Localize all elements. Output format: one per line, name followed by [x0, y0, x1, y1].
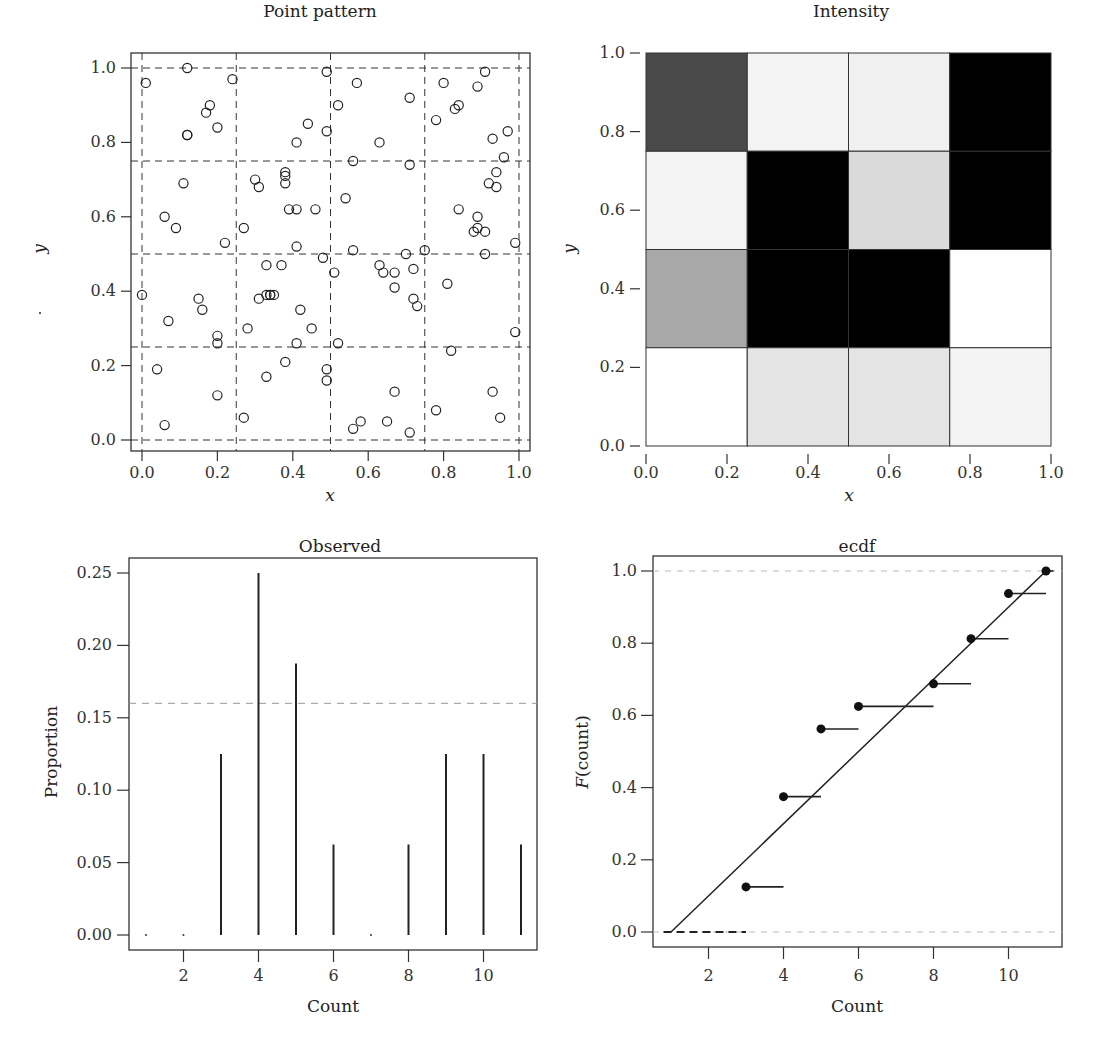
point-marker [390, 268, 399, 277]
intensity-cell [747, 53, 848, 151]
stray-mark [39, 312, 41, 314]
y-axis-label: y [559, 244, 579, 255]
point-marker [473, 82, 482, 91]
panel-point-pattern: Point pattern 0.00.20.40.60.81.0 0.00.20… [29, 1, 532, 505]
point-marker [447, 346, 456, 355]
point-marker [488, 134, 497, 143]
y-tick-label: 1.0 [600, 43, 625, 62]
zero-marker [145, 934, 147, 936]
point-marker [201, 108, 210, 117]
x-tick-label: 0.4 [280, 463, 305, 482]
point-marker [322, 376, 331, 385]
y-tick-label: 0.4 [600, 279, 625, 298]
point-marker [239, 223, 248, 232]
x-tick-label: 0.6 [876, 463, 901, 482]
y-tick-label: 0.15 [76, 708, 112, 727]
point-marker [352, 78, 361, 87]
point-marker [492, 182, 501, 191]
y-tick-label: 1.0 [91, 58, 116, 77]
intensity-cells [646, 53, 1051, 446]
intensity-cell [646, 53, 747, 151]
reference-cdf-line [671, 571, 1046, 932]
intensity-cell [747, 151, 848, 249]
point-marker [413, 301, 422, 310]
point-marker [141, 78, 150, 87]
chart-title: Point pattern [263, 1, 376, 21]
x-axis: 246810 [703, 947, 1018, 985]
chart-title: Intensity [813, 1, 889, 21]
x-tick-label: 6 [328, 966, 338, 985]
y-tick-label: 0.6 [91, 207, 116, 226]
x-tick-label: 0.8 [431, 463, 456, 482]
point-marker [431, 406, 440, 415]
point-marker [488, 387, 497, 396]
point-marker [179, 179, 188, 188]
point-marker [307, 324, 316, 333]
point-marker [443, 279, 452, 288]
x-axis: 246810 [178, 950, 493, 985]
step-point [1004, 589, 1013, 598]
intensity-cell [646, 250, 747, 348]
intensity-cell [849, 53, 950, 151]
point-marker [333, 101, 342, 110]
y-tick-label: 0.25 [76, 563, 112, 582]
y-label-count: (count) [572, 715, 592, 777]
y-tick-label: 0.2 [600, 357, 625, 376]
step-point [779, 792, 788, 801]
point-marker [160, 212, 169, 221]
point-marker [281, 357, 290, 366]
point-marker [405, 428, 414, 437]
point-marker [292, 242, 301, 251]
y-tick-label: 0.05 [76, 853, 112, 872]
x-axis-label: x [844, 485, 854, 505]
y-axis-label: y [29, 244, 49, 255]
point-marker [375, 138, 384, 147]
point-marker [322, 365, 331, 374]
y-axis-label: Proportion [41, 706, 61, 799]
x-tick-label: 0.8 [957, 463, 982, 482]
intensity-cell [849, 250, 950, 348]
x-tick-label: 1.0 [506, 463, 531, 482]
x-axis: 0.00.20.40.60.81.0 [633, 454, 1063, 482]
point-marker [454, 101, 463, 110]
y-tick-label: 0.10 [76, 780, 112, 799]
point-marker [171, 223, 180, 232]
point-marker [318, 253, 327, 262]
intensity-cell [849, 151, 950, 249]
y-tick-label: 0.0 [600, 436, 625, 455]
point-marker [480, 227, 489, 236]
ecdf-steps [742, 567, 1054, 892]
y-tick-label: 0.4 [612, 778, 637, 797]
intensity-cell [950, 250, 1051, 348]
y-tick-label: 0.6 [600, 200, 625, 219]
step-point [929, 679, 938, 688]
point-marker [469, 227, 478, 236]
point-marker [152, 365, 161, 374]
y-tick-label: 0.8 [600, 122, 625, 141]
point-marker [198, 305, 207, 314]
y-tick-label: 0.0 [91, 430, 116, 449]
x-tick-label: 0.6 [355, 463, 380, 482]
point-marker [160, 421, 169, 430]
x-tick-label: 10 [998, 966, 1018, 985]
intensity-cell [950, 151, 1051, 249]
intensity-cell [950, 348, 1051, 446]
point-marker [379, 268, 388, 277]
y-tick-label: 0.20 [76, 635, 112, 654]
point-marker [239, 413, 248, 422]
x-axis-label: x [325, 485, 335, 505]
point-marker [409, 264, 418, 273]
y-axis: 0.00.20.40.60.81.0 [600, 43, 640, 455]
point-marker [303, 119, 312, 128]
point-marker [311, 205, 320, 214]
y-tick-label: 0.8 [612, 633, 637, 652]
intensity-cell [646, 348, 747, 446]
step-point [854, 702, 863, 711]
intensity-cell [950, 53, 1051, 151]
point-marker [243, 324, 252, 333]
y-tick-label: 0.4 [91, 281, 116, 300]
point-marker [296, 305, 305, 314]
point-markers [137, 63, 519, 437]
point-marker [262, 372, 271, 381]
y-tick-label: 1.0 [612, 561, 637, 580]
